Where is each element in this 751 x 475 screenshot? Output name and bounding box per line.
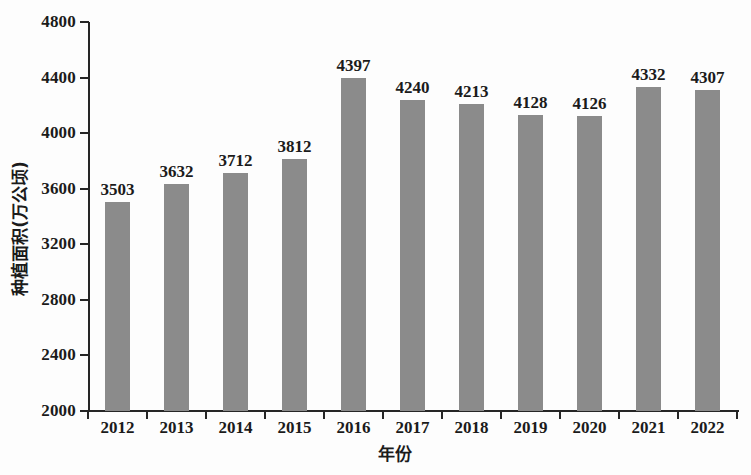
y-axis-tick	[80, 77, 89, 79]
x-axis-tick-label: 2021	[632, 418, 666, 438]
bar-value-label: 3632	[160, 162, 194, 182]
bar	[400, 100, 425, 411]
y-axis-tick	[80, 21, 89, 23]
x-axis-tick	[146, 411, 148, 419]
bar	[164, 184, 189, 411]
bar-value-label: 3812	[278, 137, 312, 157]
bar-value-label: 4240	[396, 78, 430, 98]
bar	[518, 115, 543, 411]
y-axis-tick	[80, 243, 89, 245]
bar	[341, 78, 366, 411]
x-axis-tick-label: 2022	[691, 418, 725, 438]
y-axis-tick	[80, 188, 89, 190]
bar	[282, 159, 307, 411]
bar-value-label: 4332	[632, 65, 666, 85]
bar-value-label: 3712	[219, 151, 253, 171]
y-axis-tick	[80, 354, 89, 356]
x-axis-tick-label: 2012	[101, 418, 135, 438]
x-axis-tick	[618, 411, 620, 419]
x-axis-tick-label: 2013	[160, 418, 194, 438]
x-axis-tick	[264, 411, 266, 419]
bar	[695, 90, 720, 411]
x-axis-tick	[736, 411, 738, 419]
x-axis-title: 年份	[0, 440, 751, 465]
bar-chart: 20002400280032003600400044004800 2012201…	[0, 0, 751, 475]
bar	[577, 116, 602, 411]
bar-value-label: 4213	[455, 82, 489, 102]
bar	[105, 202, 130, 411]
x-axis-tick	[382, 411, 384, 419]
bar-value-label: 3503	[101, 180, 135, 200]
bar	[459, 104, 484, 411]
x-axis-tick	[441, 411, 443, 419]
x-axis-tick-label: 2017	[396, 418, 430, 438]
x-axis-tick-label: 2015	[278, 418, 312, 438]
y-axis-tick-label: 4800	[4, 12, 76, 32]
y-axis-tick-label: 2000	[4, 401, 76, 421]
x-axis-tick	[677, 411, 679, 419]
x-axis-tick-label: 2014	[219, 418, 253, 438]
x-axis-tick	[500, 411, 502, 419]
bar	[636, 87, 661, 411]
y-axis-title: 种植面积(万公顷)	[6, 99, 31, 359]
bar-value-label: 4126	[573, 94, 607, 114]
x-axis-tick-label: 2020	[573, 418, 607, 438]
bar-value-label: 4307	[691, 68, 725, 88]
bar-value-label: 4397	[337, 56, 371, 76]
x-axis-tick-label: 2016	[337, 418, 371, 438]
x-axis-tick-label: 2019	[514, 418, 548, 438]
x-axis-tick	[559, 411, 561, 419]
x-axis-tick	[323, 411, 325, 419]
bar	[223, 173, 248, 411]
bar-value-label: 4128	[514, 93, 548, 113]
x-axis-tick	[205, 411, 207, 419]
y-axis-tick-label: 4400	[4, 68, 76, 88]
x-axis-tick-label: 2018	[455, 418, 489, 438]
x-axis-tick	[87, 411, 89, 419]
y-axis-tick	[80, 132, 89, 134]
y-axis-tick	[80, 299, 89, 301]
